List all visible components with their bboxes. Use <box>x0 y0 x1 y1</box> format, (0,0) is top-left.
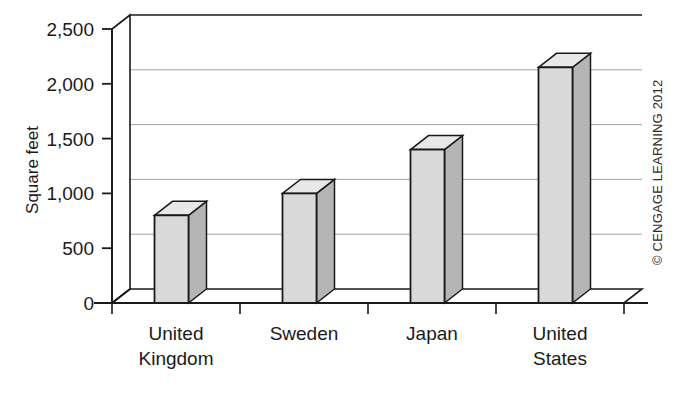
x-tick-label-united-states: United <box>533 323 588 344</box>
y-tick-label-2,500: 2,500 <box>46 19 94 40</box>
bar-united-kingdom[interactable] <box>155 201 207 303</box>
bar-side-face <box>317 179 335 303</box>
bar-front-face <box>539 67 573 303</box>
bar-united-states[interactable] <box>539 53 591 303</box>
x-tick-label-united-kingdom: Kingdom <box>139 348 214 369</box>
chart-canvas: 05001,0001,5002,0002,500UnitedKingdomSwe… <box>0 0 689 397</box>
x-tick-label-united-states: States <box>533 348 587 369</box>
x-tick-label-united-kingdom: United <box>149 323 204 344</box>
copyright-credit-text: © CENGAGE LEARNING 2012 <box>650 80 665 265</box>
y-axis-title: Square feet <box>23 126 42 214</box>
bar-chart-figure: 05001,0001,5002,0002,500UnitedKingdomSwe… <box>0 0 689 397</box>
y-tick-label-0: 0 <box>83 293 94 314</box>
bar-front-face <box>155 215 189 303</box>
y-tick-label-1,000: 1,000 <box>46 183 94 204</box>
bar-front-face <box>411 150 445 303</box>
copyright-credit: © CENGAGE LEARNING 2012 <box>650 80 665 265</box>
x-axis-labels: UnitedKingdomSwedenJapanUnitedStates <box>139 323 588 369</box>
bar-side-face <box>445 136 463 303</box>
y-axis-title-text: Square feet <box>23 126 42 214</box>
y-tick-label-1,500: 1,500 <box>46 129 94 150</box>
y-tick-label-500: 500 <box>62 238 94 259</box>
left-wall <box>112 15 130 303</box>
x-tick-label-sweden: Sweden <box>270 323 339 344</box>
y-tick-label-2,000: 2,000 <box>46 74 94 95</box>
left-wall-plane <box>112 15 130 303</box>
x-tick-label-japan: Japan <box>406 323 458 344</box>
bar-side-face <box>573 53 591 303</box>
bar-front-face <box>283 193 317 303</box>
bar-side-face <box>189 201 207 303</box>
bar-japan[interactable] <box>411 136 463 303</box>
bar-sweden[interactable] <box>283 179 335 303</box>
